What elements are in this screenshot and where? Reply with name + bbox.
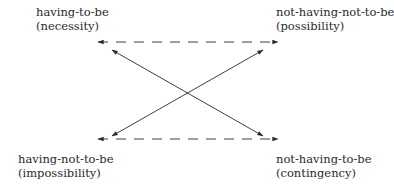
diagram-arrows [0,0,391,186]
